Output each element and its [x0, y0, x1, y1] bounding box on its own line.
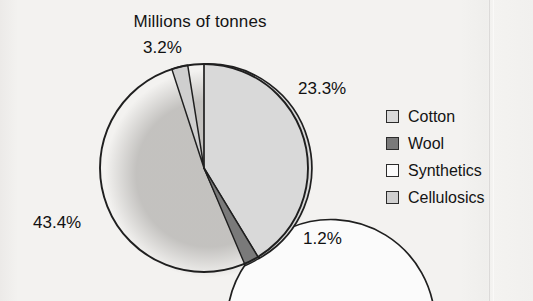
legend-swatch-synthetics [386, 164, 399, 177]
legend-label-wool: Wool [408, 136, 444, 152]
pie-label-synthetics: 43.4% [33, 213, 81, 233]
chart-legend: Cotton Wool Synthetics Cellulosics [386, 103, 531, 211]
legend-item-cotton: Cotton [386, 103, 531, 130]
legend-label-cellulosics: Cellulosics [408, 190, 484, 206]
legend-swatch-wool [386, 137, 399, 150]
pie-label-cellulosics: 3.2% [143, 38, 182, 58]
pie-chart-svg [98, 62, 313, 277]
legend-item-cellulosics: Cellulosics [386, 184, 531, 211]
legend-label-cotton: Cotton [408, 109, 455, 125]
pie-chart [98, 62, 313, 277]
legend-label-synthetics: Synthetics [408, 163, 482, 179]
legend-swatch-cotton [386, 110, 399, 123]
pie-label-cotton: 23.3% [298, 79, 346, 99]
legend-item-wool: Wool [386, 130, 531, 157]
legend-item-synthetics: Synthetics [386, 157, 531, 184]
pie-label-wool: 1.2% [303, 229, 342, 249]
chart-title: Millions of tonnes [0, 12, 400, 32]
legend-swatch-cellulosics [386, 191, 399, 204]
